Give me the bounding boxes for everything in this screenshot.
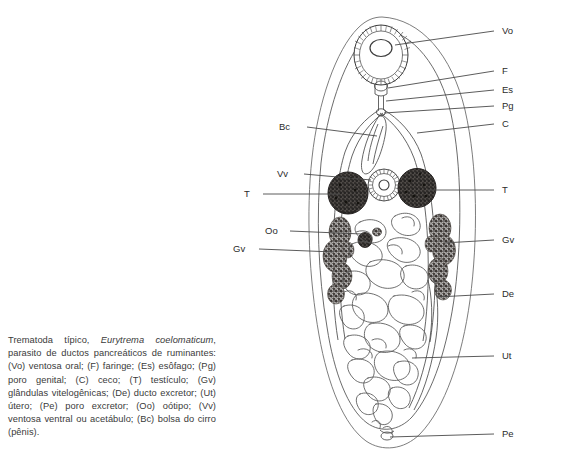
label-oo-text: Oo (265, 225, 278, 236)
label-bc-text: Bc (279, 121, 290, 132)
label-de-text: De (502, 288, 514, 299)
label-pg-text: Pg (502, 100, 514, 111)
label-gv-right-text: Gv (502, 234, 514, 245)
label-gv-left-text: Gv (233, 243, 245, 254)
figure-root: Vo F Es Pg C T Gv De (0, 0, 568, 459)
caption-species-name: Eurytrema coelomaticum (101, 335, 214, 345)
testis-right (398, 169, 436, 208)
label-c-text: C (502, 118, 509, 129)
caption-part1: Trematoda típico, (8, 335, 101, 345)
label-t-right-text: T (502, 184, 508, 195)
label-ut-text: Ut (502, 350, 512, 361)
label-vv-text: Vv (277, 168, 288, 179)
label-pe-text: Pe (502, 428, 514, 439)
label-vo-text: Vo (502, 25, 513, 36)
label-t-left-text: T (244, 188, 250, 199)
figure-caption: Trematoda típico, Eurytrema coelomaticum… (8, 334, 216, 440)
ventral-sucker (368, 169, 400, 201)
label-f-text: F (502, 65, 508, 76)
label-es-text: Es (502, 84, 513, 95)
caption-part2: , parasito de ductos pancreáticos de rum… (8, 335, 216, 437)
